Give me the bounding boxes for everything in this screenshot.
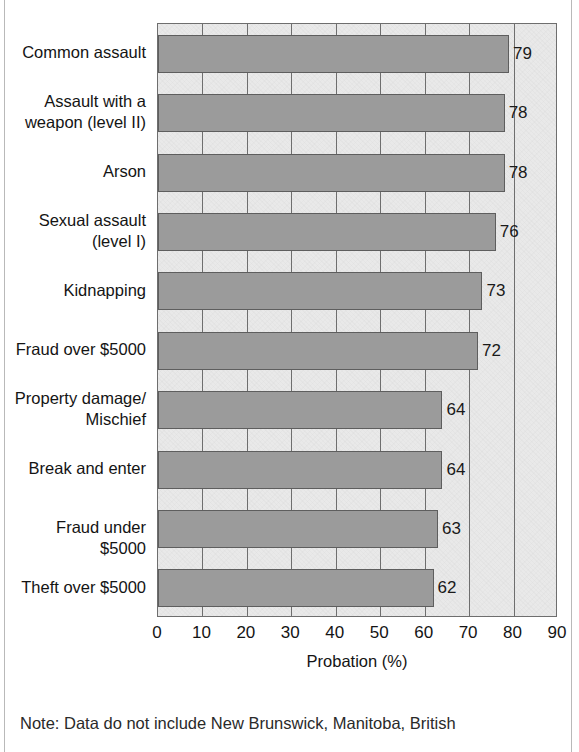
- bar-row: [158, 391, 558, 429]
- x-tick-label-60: 60: [402, 622, 446, 644]
- bar: [158, 154, 505, 192]
- bar-value-label: 79: [513, 44, 532, 61]
- bar: [158, 213, 496, 251]
- x-tick-label-30: 30: [268, 622, 312, 644]
- bar-row: [158, 569, 558, 607]
- bar-value-label: 78: [509, 163, 528, 180]
- x-tick-label-20: 20: [224, 622, 268, 644]
- category-label: Sexual assault (level I): [11, 210, 157, 252]
- bar: [158, 569, 434, 607]
- bar-value-label: 64: [446, 460, 465, 477]
- x-tick-label-10: 10: [179, 622, 223, 644]
- category-label: Theft over $5000: [11, 577, 157, 598]
- footnote: Note: Data do not include New Brunswick,…: [20, 712, 579, 734]
- bar: [158, 272, 482, 310]
- x-axis-tick-labels: 0102030405060708090: [0, 622, 579, 646]
- category-label: Assault with a weapon (level II): [11, 91, 157, 133]
- x-tick-label-40: 40: [313, 622, 357, 644]
- bar-row: [158, 154, 558, 192]
- plot-area: [157, 23, 557, 617]
- bar-value-label: 63: [442, 519, 461, 536]
- bar-row: [158, 35, 558, 73]
- category-label: Break and enter: [11, 458, 157, 479]
- bar: [158, 94, 505, 132]
- category-label: Kidnapping: [11, 280, 157, 301]
- bar-row: [158, 451, 558, 489]
- bar-value-label: 72: [482, 341, 501, 358]
- bar-value-label: 64: [446, 401, 465, 418]
- x-tick-label-70: 70: [446, 622, 490, 644]
- x-tick-label-0: 0: [135, 622, 179, 644]
- x-tick-label-50: 50: [357, 622, 401, 644]
- category-label: Fraud under $5000: [11, 517, 157, 559]
- bar-value-label: 78: [509, 104, 528, 121]
- bar-chart: Common assaultAssault with a weapon (lev…: [0, 0, 579, 700]
- bar: [158, 391, 442, 429]
- x-axis-title: Probation (%): [157, 652, 557, 671]
- bar: [158, 451, 442, 489]
- bar-row: [158, 213, 558, 251]
- bar: [158, 510, 438, 548]
- bar: [158, 35, 509, 73]
- bar-value-label: 62: [438, 579, 457, 596]
- category-label: Common assault: [11, 42, 157, 63]
- category-label: Property damage/ Mischief: [11, 388, 157, 430]
- x-tick-label-80: 80: [491, 622, 535, 644]
- category-label: Fraud over $5000: [11, 339, 157, 360]
- category-label: Arson: [11, 161, 157, 182]
- bar-row: [158, 94, 558, 132]
- bar-value-label: 73: [486, 282, 505, 299]
- bar-row: [158, 510, 558, 548]
- x-tick-label-90: 90: [535, 622, 579, 644]
- bar-value-label: 76: [500, 222, 519, 239]
- bar: [158, 332, 478, 370]
